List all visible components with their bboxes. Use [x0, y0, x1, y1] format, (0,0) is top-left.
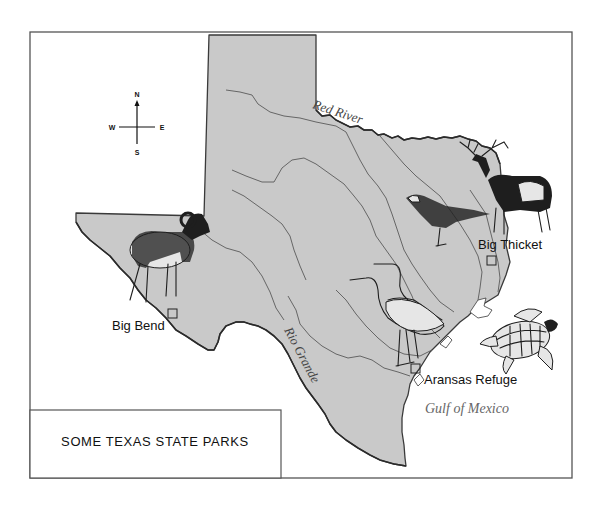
compass-east-label: E	[160, 124, 165, 131]
compass-north-label: N	[134, 91, 139, 98]
corpus-bay	[414, 374, 424, 386]
compass-south-label: S	[135, 149, 140, 156]
aransas-refuge-label: Aransas Refuge	[424, 372, 517, 387]
compass-west-label: W	[109, 124, 116, 131]
compass-rose: N S E W	[109, 91, 165, 156]
texas-parks-map: N S E W Red River Rio Grande Gulf of Mex…	[0, 0, 598, 509]
big-bend-label: Big Bend	[112, 318, 165, 333]
north-arrow-icon	[135, 100, 140, 106]
map-title: SOME TEXAS STATE PARKS	[61, 434, 249, 449]
sea-turtle-illustration	[480, 309, 558, 374]
big-thicket-label: Big Thicket	[478, 237, 542, 252]
gulf-of-mexico-label: Gulf of Mexico	[425, 401, 509, 416]
